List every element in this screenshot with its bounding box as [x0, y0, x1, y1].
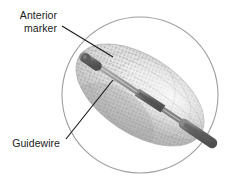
figure-container: Anterior marker Guidewire: [0, 0, 234, 182]
illustration-canvas: Anterior marker Guidewire: [0, 0, 234, 182]
anterior-marker-label-line2: marker: [24, 22, 57, 34]
anterior-marker-label-line1: Anterior: [20, 9, 58, 21]
guidewire-label: Guidewire: [12, 137, 60, 149]
